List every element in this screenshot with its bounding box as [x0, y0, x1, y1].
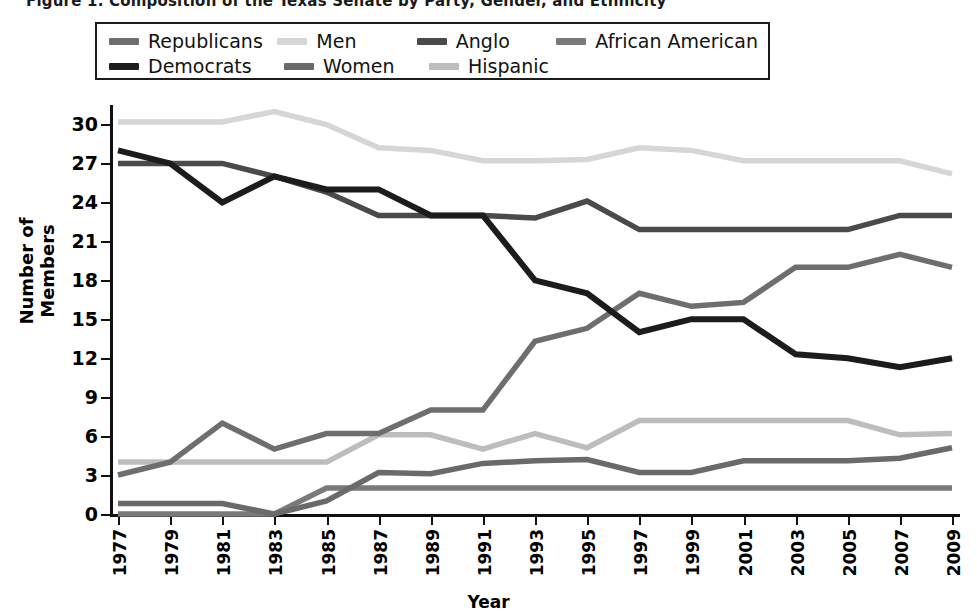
- x-tick-label: 1993: [527, 529, 547, 576]
- legend-label: Women: [323, 57, 395, 76]
- y-tick-mark: [101, 436, 110, 438]
- x-tick-label: 1985: [319, 529, 339, 576]
- figure-title-text: Figure 1. Composition of the Texas Senat…: [26, 0, 667, 10]
- y-tick-label: 9: [58, 386, 98, 408]
- legend-swatch-icon: [429, 63, 459, 70]
- legend-swatch-icon: [556, 38, 586, 45]
- legend-label: Republicans: [148, 32, 263, 51]
- y-tick-mark: [101, 397, 110, 399]
- series-line-men: [118, 112, 952, 174]
- legend-swatch-icon: [417, 38, 447, 45]
- x-tick-label: 1989: [423, 529, 443, 576]
- y-tick-mark: [101, 280, 110, 282]
- chart-figure: Figure 1. Composition of the Texas Senat…: [0, 0, 977, 616]
- y-tick-label: 27: [58, 152, 98, 174]
- y-tick-label: 0: [58, 503, 98, 525]
- y-tick-label: 6: [58, 425, 98, 447]
- legend-label: Hispanic: [468, 57, 549, 76]
- x-tick-label: 1991: [475, 529, 495, 576]
- y-tick-label: 12: [58, 347, 98, 369]
- legend-swatch-icon: [109, 38, 139, 45]
- y-tick-mark: [101, 124, 110, 126]
- legend-item-men[interactable]: Men: [277, 32, 416, 51]
- y-tick-label: 24: [58, 191, 98, 213]
- series-line-republicans: [118, 254, 952, 475]
- series-line-hispanic: [118, 421, 952, 463]
- legend-item-african-american[interactable]: African American: [556, 32, 758, 51]
- x-tick-label: 1979: [162, 529, 182, 576]
- legend-item-republicans[interactable]: Republicans: [109, 32, 277, 51]
- legend-row-2: DemocratsWomenHispanic: [109, 54, 758, 79]
- legend-swatch-icon: [277, 38, 307, 45]
- legend-label: Democrats: [148, 57, 252, 76]
- x-tick-label: 1983: [266, 529, 286, 576]
- y-tick-label: 30: [58, 113, 98, 135]
- chart-legend: RepublicansMenAngloAfrican American Demo…: [95, 22, 770, 80]
- legend-item-women[interactable]: Women: [284, 57, 429, 76]
- legend-swatch-icon: [284, 63, 314, 70]
- x-tick-label: 2009: [944, 529, 964, 576]
- y-tick-mark: [101, 163, 110, 165]
- x-tick-label: 1999: [683, 529, 703, 576]
- y-tick-label: 3: [58, 464, 98, 486]
- series-line-democrats: [118, 150, 952, 367]
- series-lines: [110, 105, 960, 517]
- x-tick-label: 1995: [579, 529, 599, 576]
- legend-item-hispanic[interactable]: Hispanic: [429, 57, 574, 76]
- plot-area: 036912151821242730 197719791981198319851…: [110, 105, 960, 517]
- x-axis-title: Year: [0, 592, 977, 612]
- y-tick-mark: [101, 241, 110, 243]
- legend-row-1: RepublicansMenAngloAfrican American: [109, 29, 758, 54]
- legend-label: African American: [595, 32, 758, 51]
- series-line-anglo: [118, 163, 952, 229]
- y-tick-mark: [101, 202, 110, 204]
- x-tick-label: 2005: [840, 529, 860, 576]
- y-tick-label: 21: [58, 230, 98, 252]
- y-tick-mark: [101, 475, 110, 477]
- figure-title: Figure 1. Composition of the Texas Senat…: [0, 0, 977, 14]
- x-tick-label: 1977: [110, 529, 130, 576]
- y-tick-mark: [101, 514, 110, 516]
- x-tick-label: 1997: [631, 529, 651, 576]
- legend-label: Men: [316, 32, 356, 51]
- y-tick-label: 18: [58, 269, 98, 291]
- y-tick-label: 15: [58, 308, 98, 330]
- legend-label: Anglo: [456, 32, 510, 51]
- legend-item-anglo[interactable]: Anglo: [417, 32, 556, 51]
- legend-swatch-icon: [109, 63, 139, 70]
- x-tick-label: 2007: [892, 529, 912, 576]
- x-tick-label: 1981: [214, 529, 234, 576]
- legend-item-democrats[interactable]: Democrats: [109, 57, 284, 76]
- x-tick-label: 2003: [788, 529, 808, 576]
- y-tick-mark: [101, 358, 110, 360]
- series-line-women: [118, 448, 952, 514]
- y-tick-mark: [101, 319, 110, 321]
- x-tick-label: 2001: [736, 529, 756, 576]
- x-tick-label: 1987: [371, 529, 391, 576]
- y-axis-title: Number of Members: [16, 171, 58, 371]
